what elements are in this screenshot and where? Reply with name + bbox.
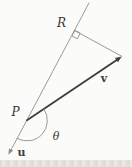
diagram-canvas: R P v u θ	[0, 0, 132, 167]
point-label-r: R	[56, 16, 66, 30]
u-arrowhead-icon	[8, 148, 13, 154]
line-through-u	[11, 3, 90, 151]
vector-label-v: v	[100, 72, 108, 85]
perpendicular-segment	[75, 31, 122, 57]
angle-arc	[17, 109, 47, 141]
angle-label-theta: θ	[53, 130, 60, 143]
vector-label-u: u	[18, 146, 26, 159]
paper-edge-texture	[0, 160, 132, 167]
point-label-p: P	[10, 105, 20, 119]
vector-projection-diagram: R P v u θ	[0, 0, 132, 167]
vector-v-line	[27, 60, 118, 121]
